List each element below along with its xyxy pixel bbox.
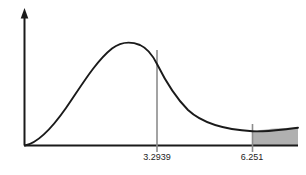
y-axis-arrow-icon — [21, 8, 29, 19]
plot-canvas — [0, 0, 306, 175]
x-tick-label-critical-value: 3.2939 — [143, 152, 171, 162]
density-curve — [25, 43, 298, 146]
x-tick-label-tail-value: 6.251 — [241, 152, 264, 162]
distribution-chart: 3.2939 6.251 — [0, 0, 306, 175]
